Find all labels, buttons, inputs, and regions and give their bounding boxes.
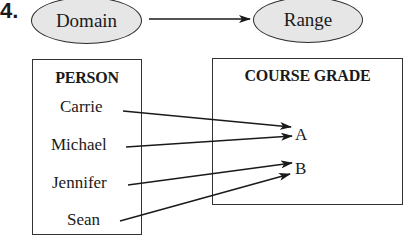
domain-item-carrie: Carrie — [60, 97, 102, 117]
domain-item-sean: Sean — [67, 210, 100, 230]
range-ellipse: Range — [253, 0, 363, 43]
range-label: Range — [284, 9, 333, 31]
domain-ellipse: Domain — [31, 0, 142, 44]
domain-label: Domain — [56, 10, 117, 32]
course-grade-set-title: COURSE GRADE — [213, 67, 402, 85]
range-item-b: B — [295, 159, 306, 179]
person-set-box: PERSON Carrie Michael Jennifer Sean — [32, 59, 142, 235]
course-grade-set-box: COURSE GRADE A B — [212, 58, 403, 205]
range-item-a: A — [295, 125, 307, 145]
domain-item-michael: Michael — [51, 135, 107, 155]
problem-number: 4. — [0, 0, 18, 24]
person-set-title: PERSON — [33, 69, 141, 87]
domain-item-jennifer: Jennifer — [52, 173, 107, 193]
